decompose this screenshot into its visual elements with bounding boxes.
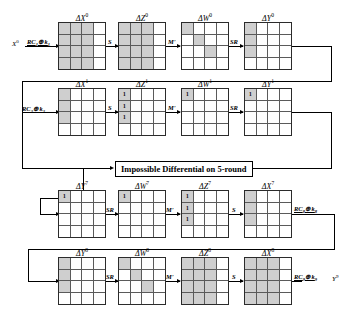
cell-1-0 <box>59 203 71 215</box>
cell-0-2 <box>205 191 217 203</box>
op-s-round7[interactable]: S <box>232 206 236 213</box>
cell-0-1 <box>194 191 206 203</box>
cell-2-1 <box>257 112 269 124</box>
cell-0-2 <box>268 191 280 203</box>
cell-3-0 <box>245 226 257 238</box>
cell-2-3 <box>154 46 166 58</box>
op-m-round1[interactable]: M' <box>168 104 176 111</box>
cell-2-1 <box>71 112 83 124</box>
cell-2-0 <box>245 281 257 293</box>
state-label-delta-w-1: ΔW1 <box>181 78 229 89</box>
cell-3-2 <box>268 293 280 305</box>
op-m-round8[interactable]: M' <box>166 273 174 280</box>
cell-0-2 <box>205 258 217 270</box>
op-sr-round7[interactable]: SR <box>106 206 114 213</box>
cell-3-3 <box>217 293 229 305</box>
op-sr-round0[interactable]: SR <box>230 38 238 45</box>
cell-0-0 <box>182 23 194 35</box>
wrap-2-v-bottom <box>28 249 29 282</box>
cell-1-3 <box>280 203 292 215</box>
input-plaintext-label: X0 <box>12 39 19 48</box>
cell-0-2 <box>82 89 94 101</box>
cell-0-0 <box>119 23 131 35</box>
cell-1-1 <box>194 203 206 215</box>
op-sr-round1[interactable]: SR <box>230 104 238 111</box>
cell-0-2 <box>205 89 217 101</box>
cell-1-1 <box>131 101 143 113</box>
cell-2-3 <box>94 214 106 226</box>
cell-1-2 <box>268 203 280 215</box>
cell-2-3 <box>94 112 106 124</box>
cell-1-0 <box>245 203 257 215</box>
cell-3-3 <box>154 124 166 136</box>
cell-2-3 <box>217 281 229 293</box>
cell-1-0 <box>59 35 71 47</box>
cell-1-0 <box>119 270 131 282</box>
cell-1-1 <box>257 270 269 282</box>
cell-0-2 <box>142 258 154 270</box>
cell-3-1 <box>71 58 83 70</box>
cell-1-1 <box>71 270 83 282</box>
cell-3-2 <box>268 124 280 136</box>
cell-3-0 <box>245 124 257 136</box>
cell-3-3 <box>280 293 292 305</box>
cell-0-1 <box>194 23 206 35</box>
round7-key-addition-label: RC8⊕ k8 <box>294 205 317 214</box>
cell-1-3 <box>217 270 229 282</box>
cell-3-0 <box>59 226 71 238</box>
cell-3-1 <box>131 226 143 238</box>
wrap-1-v <box>331 112 332 169</box>
cell-1-3 <box>94 270 106 282</box>
state-delta-x-1: ΔX1 <box>58 88 106 136</box>
op-s-round0[interactable]: S <box>108 38 112 45</box>
cell-2-1 <box>257 214 269 226</box>
cell-3-3 <box>94 226 106 238</box>
cell-0-3 <box>94 191 106 203</box>
cell-0-2 <box>82 23 94 35</box>
state-delta-z-7: ΔZ7 111 <box>181 190 229 238</box>
cell-2-2 <box>142 214 154 226</box>
cell-1-3 <box>94 101 106 113</box>
cell-0-3 <box>154 89 166 101</box>
cell-0-0 <box>245 258 257 270</box>
cell-3-3 <box>217 226 229 238</box>
cell-2-2 <box>205 112 217 124</box>
cell-0-2 <box>205 23 217 35</box>
cell-0-3 <box>217 89 229 101</box>
cell-1-0: 1 <box>182 203 194 215</box>
cell-0-1 <box>194 258 206 270</box>
cell-3-0 <box>245 58 257 70</box>
op-s-round1[interactable]: S <box>108 104 112 111</box>
op-m-round0[interactable]: M' <box>168 38 176 45</box>
wrap-2-h-right <box>292 214 335 215</box>
cell-2-0 <box>182 112 194 124</box>
state-delta-z-8: ΔZ8 <box>181 257 229 305</box>
cell-3-2 <box>142 293 154 305</box>
cell-2-2 <box>82 112 94 124</box>
state-delta-w-1: ΔW1 1 <box>181 88 229 136</box>
state-label-delta-z-8: ΔZ8 <box>181 247 229 258</box>
cell-1-3 <box>154 203 166 215</box>
cell-0-1 <box>71 89 83 101</box>
cell-2-2 <box>205 214 217 226</box>
cell-2-3 <box>280 281 292 293</box>
cell-3-1 <box>131 124 143 136</box>
cell-3-1 <box>257 124 269 136</box>
cell-2-2 <box>82 281 94 293</box>
cell-1-3 <box>280 35 292 47</box>
cell-1-2 <box>205 35 217 47</box>
op-s-round8[interactable]: S <box>232 273 236 280</box>
cell-0-3 <box>280 23 292 35</box>
cell-1-1 <box>71 203 83 215</box>
cell-0-0 <box>59 89 71 101</box>
state-delta-z-1: ΔZ1 111 <box>118 88 166 136</box>
op-m-round7[interactable]: M' <box>166 206 174 213</box>
state-delta-x-8: ΔX8 <box>244 257 292 305</box>
state-label-delta-x-0: ΔX0 <box>58 12 106 23</box>
wrap-0-h1 <box>292 46 332 47</box>
cell-2-0 <box>245 112 257 124</box>
cell-2-3 <box>217 214 229 226</box>
cell-3-3 <box>154 293 166 305</box>
op-sr-round8[interactable]: SR <box>106 273 114 280</box>
cell-3-1 <box>71 226 83 238</box>
